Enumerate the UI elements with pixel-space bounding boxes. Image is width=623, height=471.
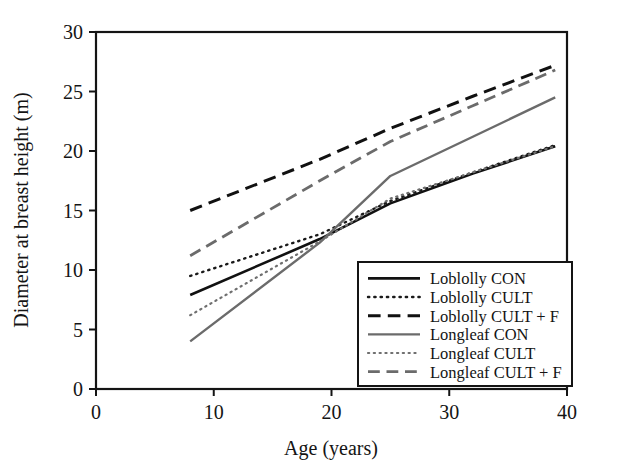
x-tick-label: 0 [91,401,101,423]
y-tick-label: 25 [63,81,83,103]
x-tick-label: 40 [557,401,577,423]
x-tick-label: 20 [322,401,342,423]
x-axis-title: Age (years) [284,437,378,460]
chart-legend: Loblolly CONLoblolly CULTLoblolly CULT +… [358,262,572,386]
legend-label: Longleaf CULT [430,344,535,363]
line-chart: 010203040 051015202530 Age (years) Diame… [0,0,623,471]
chart-figure: 010203040 051015202530 Age (years) Diame… [0,0,623,471]
legend-label: Longleaf CULT + F [430,363,562,382]
legend-label: Loblolly CON [430,269,526,288]
x-tick-label: 10 [204,401,224,423]
legend-label: Loblolly CULT + F [430,307,559,326]
y-tick-label: 20 [63,140,83,162]
x-tick-label: 30 [439,401,459,423]
y-tick-label: 10 [63,259,83,281]
legend-label: Loblolly CULT [430,288,533,307]
y-tick-label: 30 [63,21,83,43]
y-tick-label: 0 [73,378,83,400]
legend-label: Longleaf CON [430,325,529,344]
y-tick-label: 15 [63,200,83,222]
y-axis-title: Diameter at breast height (m) [10,92,33,327]
y-tick-label: 5 [73,319,83,341]
